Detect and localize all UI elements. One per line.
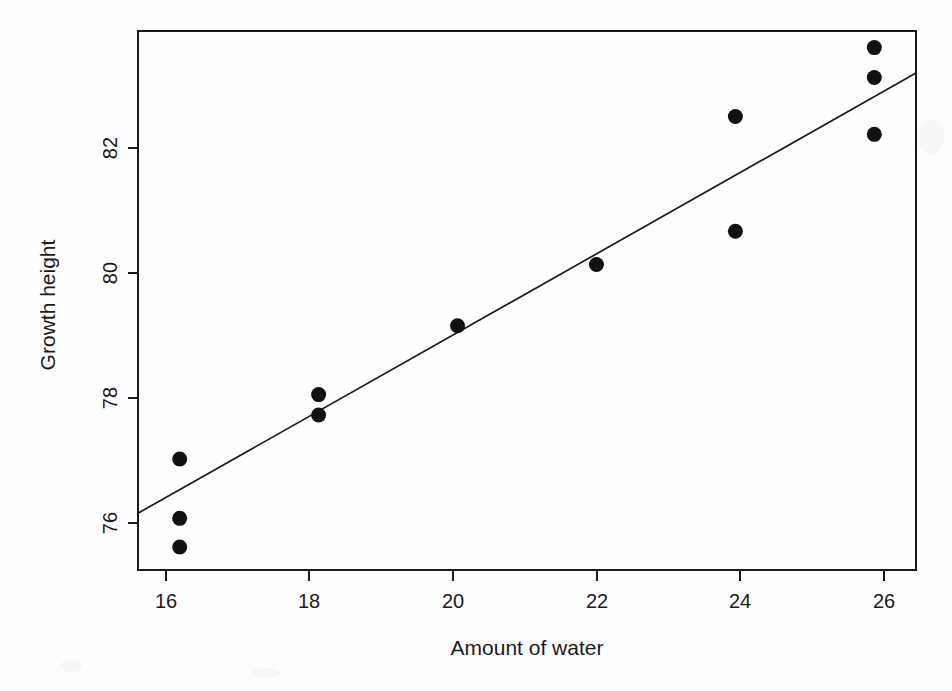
x-axis-tick-labels: 16 18 20 22 24 26 (155, 590, 895, 612)
data-point (311, 408, 326, 423)
x-axis-title: Amount of water (451, 636, 604, 659)
data-points-group (172, 40, 882, 554)
data-point (728, 224, 743, 239)
data-point (867, 40, 882, 55)
data-point (867, 70, 882, 85)
y-axis-title: Growth height (36, 239, 59, 370)
data-point (867, 127, 882, 142)
data-point (311, 387, 326, 402)
data-point (172, 540, 187, 555)
y-tick-label-76: 76 (99, 512, 121, 534)
y-tick-label-80: 80 (99, 262, 121, 284)
data-point (728, 109, 743, 124)
y-tick-label-78: 78 (99, 387, 121, 409)
y-tick-label-82: 82 (99, 137, 121, 159)
data-point (172, 452, 187, 467)
data-point (589, 257, 604, 272)
figure-canvas: 76 78 80 82 16 18 20 22 24 26 Amount of … (0, 0, 952, 691)
y-axis-tick-labels: 76 78 80 82 (99, 137, 121, 534)
x-tick-label-26: 26 (873, 590, 895, 612)
scatter-plot: 76 78 80 82 16 18 20 22 24 26 Amount of … (0, 0, 952, 691)
x-tick-label-22: 22 (586, 590, 608, 612)
x-tick-label-20: 20 (442, 590, 464, 612)
plot-box-border (138, 31, 916, 570)
x-axis-ticks (166, 570, 884, 581)
data-point (172, 511, 187, 526)
x-tick-label-24: 24 (729, 590, 751, 612)
data-point (450, 318, 465, 333)
y-axis-ticks (128, 148, 138, 523)
x-tick-label-18: 18 (298, 590, 320, 612)
regression-line (138, 73, 916, 513)
x-tick-label-16: 16 (155, 590, 177, 612)
